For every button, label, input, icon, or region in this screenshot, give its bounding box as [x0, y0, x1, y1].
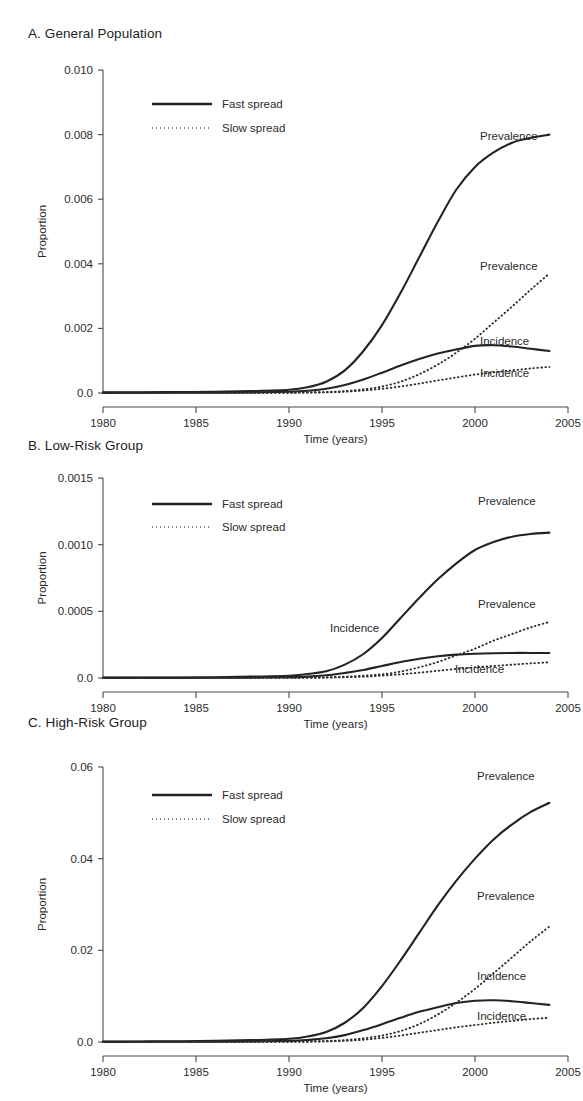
annotation-prevalence-slow: Prevalence [478, 598, 536, 610]
y-tick-label: 0.0015 [58, 472, 93, 484]
x-tick-label: 1985 [183, 702, 209, 714]
legend: Fast spreadSlow spread [152, 98, 285, 134]
x-tick-label: 1990 [276, 1066, 302, 1078]
x-tick-label: 2005 [555, 1066, 581, 1078]
annotation-incidence-fast: Incidence [480, 335, 529, 347]
annotation-incidence-fast: Incidence [330, 622, 379, 634]
x-tick-label: 1980 [90, 702, 116, 714]
y-axis-title: Proportion [36, 205, 48, 258]
annotation-prevalence-slow: Prevalence [480, 260, 538, 272]
legend-label-slow-spread: Slow spread [222, 521, 285, 533]
x-tick-label: 1990 [276, 702, 302, 714]
legend: Fast spreadSlow spread [152, 498, 285, 533]
legend-label-slow-spread: Slow spread [222, 122, 285, 134]
x-tick-label: 2005 [555, 702, 581, 714]
y-tick-label: 0.04 [71, 853, 94, 865]
x-tick-label: 1985 [183, 1066, 209, 1078]
x-tick-label: 2000 [462, 702, 488, 714]
legend-label-fast-spread: Fast spread [222, 98, 283, 110]
x-tick-label: 1980 [90, 417, 116, 429]
x-tick-label: 1995 [369, 417, 395, 429]
y-tick-label: 0.002 [64, 322, 93, 334]
panel-b-plot: 0.00.00050.00100.00151980198519901995200… [0, 430, 583, 715]
annotation-incidence-slow: Incidence [477, 1010, 526, 1022]
figure-root: A. General Population 0.00.0020.0040.006… [0, 0, 583, 1101]
x-tick-label: 1980 [90, 1066, 116, 1078]
y-tick-label: 0.06 [71, 761, 93, 773]
y-tick-label: 0.02 [71, 944, 93, 956]
y-tick-label: 0.0010 [58, 539, 93, 551]
y-tick-label: 0.0005 [58, 605, 93, 617]
x-tick-label: 2005 [555, 417, 581, 429]
y-tick-label: 0.0 [77, 387, 93, 399]
panel-c-plot: 0.00.020.040.06198019851990199520002005T… [0, 715, 583, 1101]
x-tick-label: 1985 [183, 417, 209, 429]
y-axis-title: Proportion [36, 878, 48, 931]
annotation-prevalence-fast: Prevalence [480, 130, 538, 142]
x-tick-label: 2000 [462, 417, 488, 429]
x-tick-label: 1995 [369, 1066, 395, 1078]
annotation-prevalence-fast: Prevalence [478, 495, 536, 507]
legend-label-fast-spread: Fast spread [222, 498, 283, 510]
x-tick-label: 2000 [462, 1066, 488, 1078]
panel-a-plot: 0.00.0020.0040.0060.0080.010198019851990… [0, 0, 583, 430]
annotation-prevalence-slow: Prevalence [477, 890, 535, 902]
y-tick-label: 0.004 [64, 258, 93, 270]
x-axis-title: Time (years) [303, 1082, 367, 1094]
annotation-incidence-slow: Incidence [480, 367, 529, 379]
y-axis-title: Proportion [36, 551, 48, 604]
y-tick-label: 0.0 [77, 672, 93, 684]
y-tick-label: 0.0 [77, 1036, 93, 1048]
legend-label-slow-spread: Slow spread [222, 813, 285, 825]
annotation-prevalence-fast: Prevalence [477, 770, 535, 782]
x-tick-label: 1995 [369, 702, 395, 714]
y-tick-label: 0.008 [64, 129, 93, 141]
annotation-incidence-fast: Incidence [477, 970, 526, 982]
legend-label-fast-spread: Fast spread [222, 789, 283, 801]
x-tick-label: 1990 [276, 417, 302, 429]
y-tick-label: 0.006 [64, 193, 93, 205]
panel-low-risk-group: B. Low-Risk Group 0.00.00050.00100.00151… [0, 430, 583, 715]
series-prevalence-fast [103, 803, 549, 1042]
panel-general-population: A. General Population 0.00.0020.0040.006… [0, 0, 583, 430]
panel-high-risk-group: C. High-Risk Group 0.00.020.040.06198019… [0, 715, 583, 1101]
annotation-incidence-slow: Incidence [455, 663, 504, 675]
legend: Fast spreadSlow spread [152, 789, 285, 825]
y-tick-label: 0.010 [64, 64, 93, 76]
